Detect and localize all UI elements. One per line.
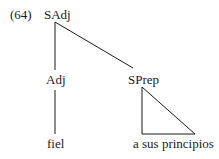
leaf-fiel: fiel [47,137,64,150]
node-adj: Adj [46,73,66,86]
node-sprep: SPrep [128,73,159,86]
example-number: (64) [10,8,32,21]
leaf-a-sus-principios: a sus principios [133,137,214,150]
edge-sadj-sprep [55,22,133,68]
node-sadj: SAdj [44,8,71,21]
sprep-triangle [142,87,195,134]
